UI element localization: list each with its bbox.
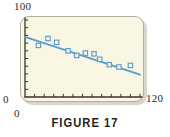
data-point-marker [98,57,102,61]
regression-line-group [25,37,140,75]
y-axis-min-label: 0 [3,94,9,105]
data-point-group [36,36,132,69]
data-point-marker [107,62,111,66]
data-point-marker [54,40,58,44]
scatter-plot-panel [20,16,144,102]
figure-caption: FIGURE 17 [12,115,158,130]
data-point-marker [75,53,79,57]
tick-group [25,20,140,97]
y-axis-max-label: 100 [14,1,31,12]
regression-line [25,37,140,75]
axis-group [25,18,142,97]
figure-17-container: 100 0 0 120 FIGURE 17 [0,0,170,137]
data-point-marker [83,51,87,55]
data-point-marker [128,63,132,67]
plot-graphics [20,16,144,102]
data-point-marker [66,49,70,53]
data-point-marker [92,52,96,56]
data-point-marker [36,43,40,47]
data-point-marker [46,36,50,40]
data-point-marker [117,65,121,69]
x-axis-max-label: 120 [146,93,163,104]
